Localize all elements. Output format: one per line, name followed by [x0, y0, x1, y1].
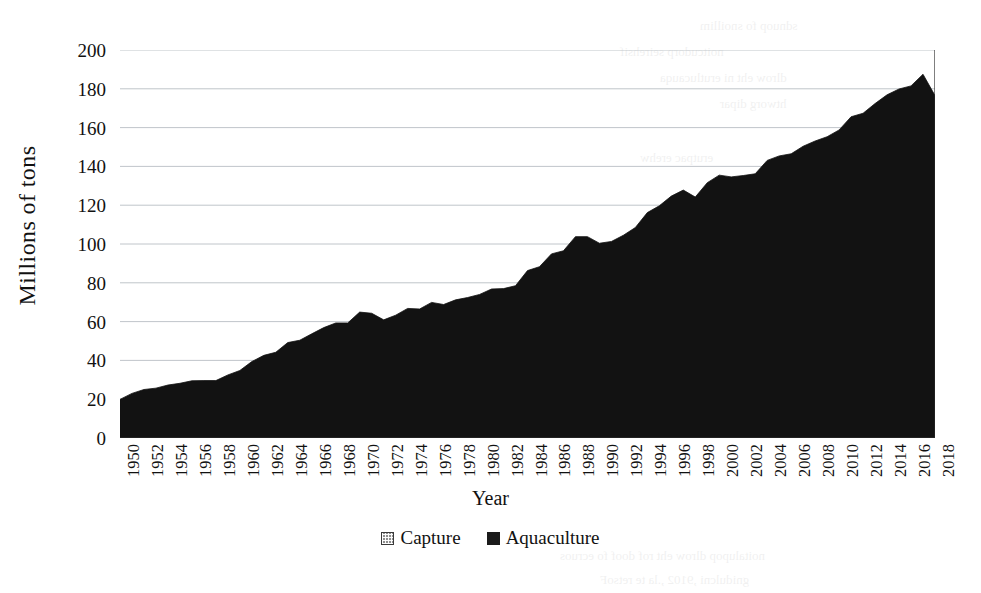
y-axis-tick-label: 40: [87, 351, 106, 370]
x-axis-title: Year: [0, 487, 981, 510]
legend-item-aquaculture[interactable]: Aquaculture: [487, 527, 600, 549]
x-axis-tick-label: 2002: [749, 444, 766, 477]
x-axis-tick-label: 1976: [438, 444, 455, 477]
x-axis-tick-label: 1974: [414, 444, 431, 477]
x-axis-tick-label: 2008: [821, 444, 838, 477]
x-axis-tick-label: 2006: [797, 444, 814, 477]
x-axis-tick-label: 1958: [222, 444, 239, 477]
y-axis-tick-label: 20: [87, 390, 106, 409]
stacked-area-chart: [120, 50, 935, 438]
x-axis-tick-label: 1964: [294, 444, 311, 477]
x-axis-tick-label: 2018: [941, 444, 958, 477]
x-axis-tick-label: 2012: [869, 444, 886, 477]
y-axis-tick-label: 160: [78, 118, 107, 137]
x-axis-tick-label: 1982: [510, 444, 527, 477]
aquaculture-swatch-icon: [487, 532, 500, 545]
capture-swatch-icon: [381, 532, 394, 545]
x-axis-tick-label: 1998: [701, 444, 718, 477]
x-axis-tick-label: 1992: [629, 444, 646, 477]
x-axis-tick-label: 1950: [126, 444, 143, 477]
x-axis-tick-label: 1952: [150, 444, 167, 477]
area-series-aquaculture: [120, 74, 935, 438]
x-axis-tick-label: 1960: [246, 444, 263, 477]
y-axis-tick-label: 140: [78, 157, 107, 176]
x-axis-tick-label: 1954: [174, 444, 191, 477]
y-axis-title: Millions of tons: [0, 0, 56, 450]
x-axis-tick-label: 1980: [486, 444, 503, 477]
x-axis-tick-label: 1970: [366, 444, 383, 477]
x-axis-tick-label: 1996: [677, 444, 694, 477]
legend-label: Aquaculture: [506, 527, 600, 549]
y-axis-title-label: Millions of tons: [15, 145, 42, 305]
x-axis-title-label: Year: [472, 487, 509, 509]
x-axis-tick-label: 1988: [581, 444, 598, 477]
x-axis-tick-label: 2016: [917, 444, 934, 477]
x-axis-tick-label: 1986: [557, 444, 574, 477]
x-axis-tick-label: 1994: [653, 444, 670, 477]
y-axis-tick-label: 60: [87, 312, 106, 331]
y-axis-tick-label: 120: [78, 196, 107, 215]
x-axis-tick-labels: 1950195219541956195819601962196419661968…: [120, 442, 935, 492]
y-axis-tick-label: 80: [87, 273, 106, 292]
y-axis-tick-label: 200: [78, 41, 107, 60]
x-axis-tick-label: 2000: [725, 444, 742, 477]
x-axis-tick-label: 1962: [270, 444, 287, 477]
x-axis-tick-label: 1968: [342, 444, 359, 477]
x-axis-tick-label: 1956: [198, 444, 215, 477]
y-axis-tick-label: 100: [78, 235, 107, 254]
x-axis-tick-label: 2010: [845, 444, 862, 477]
x-axis-tick-label: 1978: [462, 444, 479, 477]
x-axis-tick-label: 1990: [605, 444, 622, 477]
legend-label: Capture: [400, 527, 460, 549]
chart-legend: CaptureAquaculture: [0, 527, 981, 549]
x-axis-tick-label: 2004: [773, 444, 790, 477]
legend-item-capture[interactable]: Capture: [381, 527, 460, 549]
x-axis-tick-label: 1984: [534, 444, 551, 477]
chart-figure: Millions of tons 02040608010012014016018…: [0, 0, 981, 593]
y-axis-tick-labels: 020406080100120140160180200: [52, 0, 114, 460]
y-axis-tick-label: 180: [78, 79, 107, 98]
y-axis-tick-label: 0: [97, 429, 107, 448]
x-axis-tick-label: 1966: [318, 444, 335, 477]
x-axis-tick-label: 1972: [390, 444, 407, 477]
x-axis-tick-label: 2014: [893, 444, 910, 477]
plot-area: [120, 50, 935, 438]
